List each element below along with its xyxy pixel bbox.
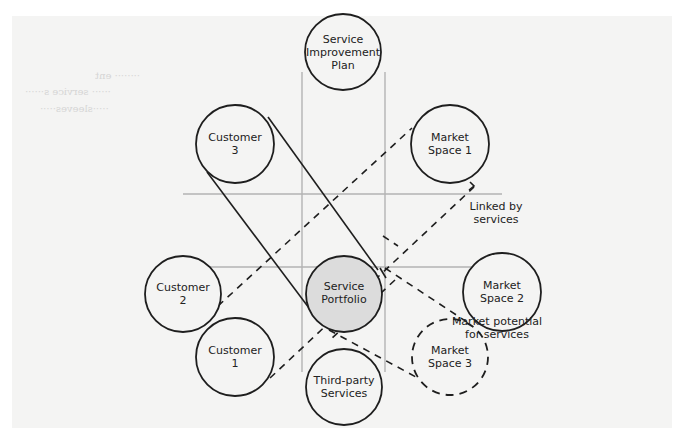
- annotation-line: Linked by: [470, 200, 523, 213]
- node-market-space-2: Market Space 2: [480, 279, 524, 305]
- label-line: Services: [313, 387, 374, 400]
- label-line: Space 3: [428, 357, 472, 370]
- node-customer-1: Customer 1: [208, 344, 261, 370]
- label-line: Market: [480, 279, 524, 292]
- label-line: Customer: [208, 344, 261, 357]
- annotation-market-potential-for-services: Market potential for services: [452, 315, 542, 341]
- label-line: 1: [208, 357, 261, 370]
- label-line: Customer: [208, 131, 261, 144]
- label-line: Customer: [156, 281, 209, 294]
- node-customer-2: Customer 2: [156, 281, 209, 307]
- label-line: 3: [208, 144, 261, 157]
- annotation-line: services: [470, 213, 523, 226]
- node-customer-3: Customer 3: [208, 131, 261, 157]
- annotation-linked-by-services: Linked by services: [470, 200, 523, 226]
- label-line: Space 1: [428, 144, 472, 157]
- label-line: Plan: [306, 59, 380, 72]
- node-service-portfolio: Service Portfolio: [321, 280, 366, 306]
- label-line: Third-party: [313, 374, 374, 387]
- label-line: Service: [321, 280, 366, 293]
- annotation-line: Market potential: [452, 315, 542, 328]
- label-line: Service: [306, 33, 380, 46]
- label-line: Portfolio: [321, 293, 366, 306]
- node-market-space-1: Market Space 1: [428, 131, 472, 157]
- label-line: 2: [156, 294, 209, 307]
- node-market-space-3: Market Space 3: [428, 344, 472, 370]
- arrow-ticks: [380, 182, 474, 278]
- node-third-party-services: Third-party Services: [313, 374, 374, 400]
- node-service-improvement-plan: Service Improvement Plan: [306, 33, 380, 72]
- annotation-line: for services: [452, 328, 542, 341]
- label-line: Market: [428, 131, 472, 144]
- label-line: Market: [428, 344, 472, 357]
- label-line: Space 2: [480, 292, 524, 305]
- label-line: Improvement: [306, 46, 380, 59]
